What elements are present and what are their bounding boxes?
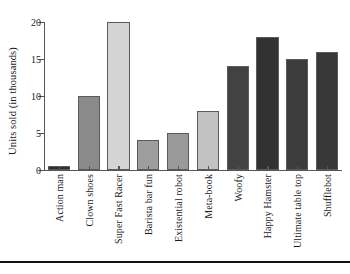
x-tick: Woofy	[223, 172, 253, 268]
x-tick: Ultimate table top	[282, 172, 312, 268]
bar	[316, 52, 338, 170]
bar	[107, 22, 129, 170]
x-tick: Shufflebot	[312, 172, 342, 268]
bar	[256, 37, 278, 170]
y-tick-label: 20	[31, 17, 41, 28]
x-tick-label: Ultimate table top	[292, 174, 303, 248]
x-tick-mark	[178, 166, 179, 171]
x-tick-label: Shufflebot	[322, 174, 333, 217]
y-tick-label: 5	[36, 128, 41, 139]
page-divider-rule	[0, 261, 350, 263]
x-tick: Meta-book	[193, 172, 223, 268]
bar	[227, 66, 249, 170]
x-tick-label: Clown shoes	[83, 174, 94, 227]
x-tick-label: Meta-book	[202, 174, 213, 219]
x-tick-label: Action man	[53, 174, 64, 222]
x-tick-mark	[327, 166, 328, 171]
x-tick: Super Fast Racer	[104, 172, 134, 268]
x-tick-mark	[59, 166, 60, 171]
x-tick-label: Woofy	[232, 174, 243, 201]
x-tick-label: Happy Hamster	[262, 174, 273, 238]
x-axis-tick-labels: Action manClown shoesSuper Fast RacerBar…	[44, 172, 342, 272]
y-tick-label: 10	[31, 91, 41, 102]
x-tick-mark	[118, 166, 119, 171]
x-tick: Clown shoes	[74, 172, 104, 268]
x-tick-label: Existential robot	[173, 174, 184, 242]
x-tick: Barista bar fun	[133, 172, 163, 268]
x-tick-mark	[148, 166, 149, 171]
x-tick-mark	[267, 166, 268, 171]
y-tick-label: 0	[36, 165, 41, 176]
bar	[78, 96, 100, 170]
x-tick: Happy Hamster	[253, 172, 283, 268]
x-tick-mark	[208, 166, 209, 171]
x-tick-mark	[238, 166, 239, 171]
bar-chart-figure: Units sold (in thousands) 05101520 Actio…	[0, 0, 350, 274]
x-tick-label: Barista bar fun	[143, 174, 154, 235]
x-tick-mark	[89, 166, 90, 171]
y-axis-label: Units sold (in thousands)	[4, 26, 22, 176]
bar	[286, 59, 308, 170]
x-tick: Action man	[44, 172, 74, 268]
bar	[167, 133, 189, 170]
y-tick-label: 15	[31, 54, 41, 65]
x-tick: Existential robot	[163, 172, 193, 268]
bar-series	[44, 22, 342, 170]
x-tick-mark	[297, 166, 298, 171]
bar	[197, 111, 219, 170]
x-tick-label: Super Fast Racer	[113, 174, 124, 244]
